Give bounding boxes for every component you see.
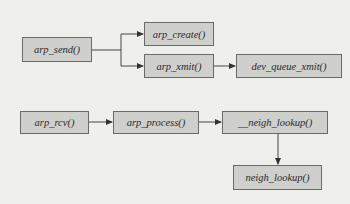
node-arp-process: arp_process(): [113, 111, 199, 134]
node-dev-queue-xmit: dev_queue_xmit(): [236, 54, 342, 78]
node-arp-create: arp_create(): [144, 22, 214, 46]
call-graph-diagram: arp_send() arp_create() arp_xmit() dev_q…: [0, 0, 350, 204]
node-arp-rcv: arp_rcv(): [20, 111, 89, 134]
node-arp-send: arp_send(): [22, 37, 92, 62]
node-neigh-lookup: neigh_lookup(): [233, 165, 322, 190]
edge-arp-send-to-arp-create: [92, 34, 143, 50]
edge-arp-send-to-arp-xmit: [121, 50, 143, 66]
node-arp-xmit: arp_xmit(): [144, 54, 214, 78]
node-neigh-lookup-internal: __neigh_lookup(): [222, 111, 328, 134]
